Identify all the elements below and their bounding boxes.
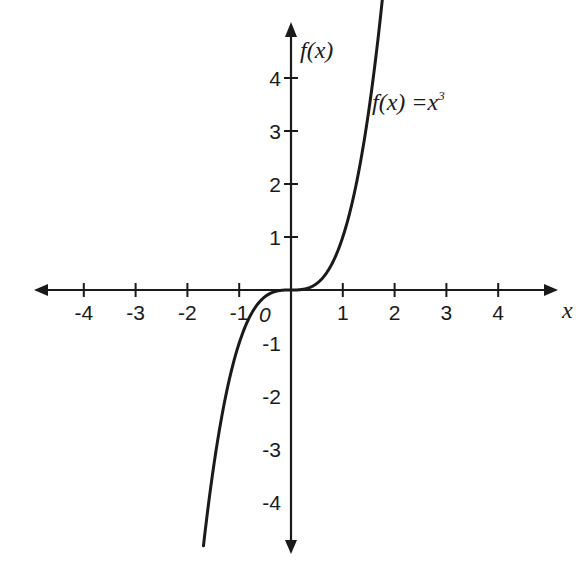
curve-annotation-exponent: 3 [437, 88, 445, 103]
x-axis-left-arrow-icon [34, 284, 48, 296]
y-axis-down-arrow-icon [285, 540, 297, 554]
x-tick-label: -4 [74, 301, 93, 324]
y-tick-label: 1 [269, 226, 281, 249]
x-tick-label: -1 [230, 301, 249, 324]
curve-annotation-text: f(x) =x [372, 89, 439, 115]
cubic-function-plot: -4-3-2-112344321-1-2-3-4 x f(x) 0 f(x) =… [0, 0, 582, 578]
y-tick-label: -2 [262, 385, 281, 408]
x-axis-label: x [561, 297, 573, 323]
y-tick-label: 4 [269, 67, 281, 90]
y-tick-label: 2 [269, 173, 281, 196]
y-axis-label: f(x) [300, 37, 333, 63]
x-tick-label: -3 [126, 301, 145, 324]
x-tick-label: -2 [178, 301, 197, 324]
y-axis-up-arrow-icon [285, 22, 297, 37]
x-tick-label: 2 [389, 301, 401, 324]
origin-label: 0 [259, 303, 271, 326]
y-tick-label: -3 [262, 438, 281, 461]
curve-annotation: f(x) =x3 [372, 88, 445, 115]
axes [34, 22, 558, 554]
cubic-curve [203, 0, 382, 546]
y-tick-label: 3 [269, 120, 281, 143]
y-tick-label: -1 [262, 332, 281, 355]
y-tick-label: -4 [262, 491, 281, 514]
x-tick-label: 1 [337, 301, 349, 324]
x-tick-label: 3 [441, 301, 453, 324]
x-axis-right-arrow-icon [544, 284, 558, 296]
x-tick-label: 4 [492, 301, 504, 324]
